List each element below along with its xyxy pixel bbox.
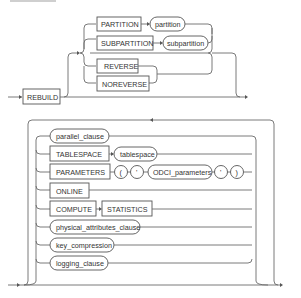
parallel-clause-param: parallel_clause (50, 129, 109, 143)
subpartition-keyword: SUBPARTITION (97, 36, 153, 50)
open-quote-token: ' (131, 166, 144, 179)
logging-clause-param: logging_clause (50, 256, 108, 270)
arrow-icon (19, 95, 22, 99)
rail-line (36, 223, 50, 227)
rail-line (84, 39, 96, 49)
odci-parameters-param: ODCI_parameters (148, 165, 212, 179)
key-compression-param: key_compression (50, 238, 114, 252)
compute-keyword: COMPUTE (50, 201, 96, 216)
noreverse-keyword: NOREVERSE (97, 76, 149, 91)
clipped-title (10, 0, 56, 2)
svg-text:STATISTICS: STATISTICS (107, 205, 148, 214)
svg-text:COMPUTE: COMPUTE (56, 205, 92, 214)
rail-line (36, 241, 50, 245)
loop-arrow-icon (150, 118, 153, 122)
arrow-icon (17, 283, 20, 287)
svg-text:ONLINE: ONLINE (56, 187, 83, 196)
svg-text:physical_attributes_clause: physical_attributes_clause (56, 223, 140, 232)
syntax-diagram: REBUILD PARTITION partition SUBPARTITION… (0, 0, 301, 298)
rail-line (80, 53, 96, 66)
rail-line (36, 186, 50, 190)
svg-text:ODCI_parameters: ODCI_parameters (153, 168, 212, 177)
rail-line (36, 168, 50, 172)
partition-keyword: PARTITION (97, 17, 141, 31)
rail-line (185, 24, 212, 34)
close-quote-token: ' (215, 166, 228, 179)
svg-text:TABLESPACE: TABLESPACE (56, 150, 102, 159)
rail-line (212, 53, 240, 97)
close-paren-token: ) (231, 166, 244, 179)
svg-text:partition: partition (155, 20, 181, 29)
rail-line (36, 259, 50, 263)
parameters-keyword: PARAMETERS (50, 164, 110, 179)
tablespace-param: tablespace (114, 147, 157, 161)
rail-line (108, 259, 252, 263)
exit-arrow-icon (245, 95, 248, 99)
online-keyword: ONLINE (50, 183, 89, 198)
svg-text:): ) (236, 168, 238, 177)
rail-line (84, 66, 96, 83)
rebuild-keyword: REBUILD (23, 89, 60, 104)
physical-attributes-clause-param: physical_attributes_clause (50, 220, 140, 234)
rail-line (252, 136, 268, 285)
svg-text:parallel_clause: parallel_clause (56, 132, 104, 141)
svg-text:SUBPARTITION: SUBPARTITION (101, 39, 153, 48)
subpartition-param: subpartition (163, 36, 208, 50)
arrow-icon (77, 51, 80, 55)
svg-text:subpartition: subpartition (167, 39, 204, 48)
open-paren-token: ( (115, 166, 128, 179)
rail-line (80, 24, 96, 53)
exit-arrow-icon (280, 283, 283, 287)
svg-text:REBUILD: REBUILD (27, 93, 58, 102)
svg-text:PARTITION: PARTITION (101, 20, 139, 29)
svg-text:tablespace: tablespace (120, 150, 155, 159)
tablespace-keyword: TABLESPACE (50, 146, 109, 161)
rail-line (36, 205, 50, 209)
rail-line (208, 28, 212, 43)
branch-up-line (64, 53, 78, 97)
svg-text:REVERSE: REVERSE (104, 62, 139, 71)
svg-text:NOREVERSE: NOREVERSE (102, 80, 147, 89)
rail-line (157, 53, 212, 74)
svg-text:logging_clause: logging_clause (56, 259, 104, 268)
rail-line (36, 150, 50, 154)
reverse-keyword: REVERSE (97, 59, 139, 73)
statistics-keyword: STATISTICS (102, 201, 152, 216)
svg-text:key_compression: key_compression (56, 241, 112, 250)
svg-text:PARAMETERS: PARAMETERS (56, 168, 105, 177)
partition-param: partition (150, 17, 185, 31)
